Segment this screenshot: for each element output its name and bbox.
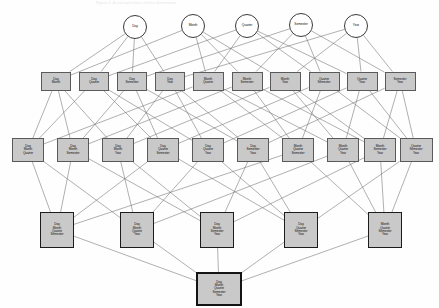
lattice-edge [153,162,197,212]
lattice-edge [32,162,50,212]
lattice-edge [311,31,384,72]
lattice-edge [263,89,365,142]
lattice-edge [363,35,392,71]
lattice-concept-node: Day Semester [117,72,147,91]
lattice-edge [136,91,157,139]
lattice-concept-node: Quarter Semester [309,72,340,91]
node-label: Day Quarter Year [203,145,213,155]
lattice-concept-node: Month Quarter Year [327,138,359,162]
node-label: Semester Year [394,78,407,85]
lattice-edge [254,91,289,139]
node-label: Quarter [242,24,252,27]
lattice-concept-node: Day Month Semester Year [200,212,234,248]
lattice-edge [33,91,52,139]
lattice-concept-node: Month Semester [232,72,263,91]
node-label: Day Month Semester [67,145,80,155]
lattice-edge [260,162,290,212]
node-label: Month Year [281,78,289,85]
lattice-concept-node: Day Month Semester [57,138,89,162]
node-label: Semester [294,23,307,26]
node-label: Day Month Quarter Semester [51,223,64,236]
lattice-edge [58,91,70,139]
lattice-edge [175,91,201,139]
node-label: Quarter Year [357,78,367,85]
lattice-edge [346,91,359,139]
lattice-edge [65,91,108,139]
lattice-edge [134,87,270,143]
lattice-edge [293,91,333,139]
node-label: Day Year [167,78,173,85]
lattice-edge [218,248,219,272]
lattice-concept-node: Day Month Year [102,138,134,162]
lattice-concept-node: Month Year [270,72,301,91]
lattice-concept-node: Day Quarter Semester Year [284,212,318,248]
node-label: Day Quarter [89,78,99,85]
node-label: Day Month Year [114,145,122,155]
lattice-edge [298,91,364,139]
lattice-concept-node: Month Semester Year [364,138,396,162]
lattice-concept-node: Month Quarter Semester [282,138,314,162]
lattice-concept-node: Day Month [41,72,71,91]
node-label: Day [132,25,138,28]
lattice-concept-node: Quarter Year [347,72,378,91]
lattice-atom-node: Quarter [235,14,259,38]
lattice-edge [104,91,152,139]
lattice-edge [369,91,406,139]
lattice-edge [258,31,347,73]
lattice-concept-node: Semester Year [385,72,416,91]
lattice-atom-node: Day [123,15,147,39]
node-label: Month Quarter Semester [292,145,305,155]
lattice-edge [303,91,321,139]
node-label: Day Quarter Semester [157,145,170,155]
lattice-edge [71,30,182,75]
node-label: Month Quarter [203,78,213,85]
lattice-edge [74,162,147,217]
node-label: Day Quarter Semester Year [295,223,308,236]
node-label: Month Quarter Year [338,145,348,155]
lattice-edge [61,162,71,212]
lattice-edge [179,88,309,143]
node-label: Day Month Quarter Semester Year [213,281,226,297]
lattice-edge [257,33,311,72]
node-label: Month [189,24,198,27]
node-label: Day Month [52,78,60,85]
node-label: Month Semester [241,78,254,85]
node-label: Month Quarter Semester Year [379,223,392,236]
node-label: Quarter Semester Year [410,145,423,155]
lattice-concept-node: Day Quarter [79,72,109,91]
lattice-edge [306,36,321,71]
lattice-edge [109,90,192,140]
lattice-edge [44,162,120,218]
lattice-edge [297,33,346,71]
lattice-edge [201,35,237,72]
lattice-concept-node: Quarter Semester Year [400,138,433,162]
lattice-edge [224,89,328,142]
lattice-edge [121,162,133,212]
lattice-concept-node: Month Quarter [193,72,224,91]
lattice-concept-node: Day Month Quarter Semester Year [196,272,242,306]
lattice-edge [225,162,248,212]
lattice-edge [381,162,384,212]
lattice-concept-node: Day Month Quarter [12,138,44,162]
lattice-concept-node: Day Month Quarter Semester [40,212,74,248]
lattice-edge [222,162,284,215]
lattice-diagram-canvas: Figure 2. A concept lattice of time dime… [0,0,439,308]
node-label: Day Month Semester Year [211,223,224,236]
lattice-concept-node: Month Quarter Semester Year [368,212,402,248]
lattice-edge [179,159,284,220]
lattice-atom-node: Semester [289,13,313,37]
node-label: Day Month Quarter [23,145,33,155]
lattice-edge [392,162,411,212]
lattice-edge [318,161,400,218]
node-label: Day Month Quarter Year [132,223,142,236]
lattice-atom-node: Month [181,14,205,38]
lattice-edge [357,38,361,72]
lattice-edge [83,91,124,139]
lattice-edge [154,242,196,272]
lattice-edge [89,87,232,144]
lattice-concept-node: Day Quarter Year [192,138,224,162]
lattice-edge [269,88,385,142]
lattice-edge [402,91,413,139]
lattice-edge [70,34,125,72]
node-label: Day Semester [126,78,139,85]
